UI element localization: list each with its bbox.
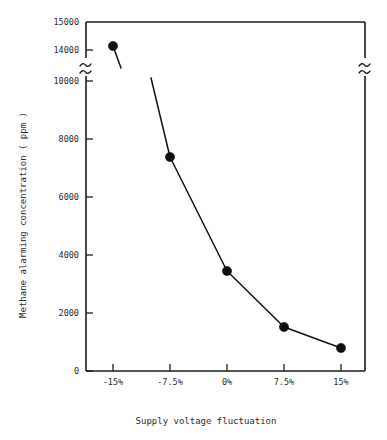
data-point-15 [336, 343, 345, 352]
y-tick-label-6000: 6000 [59, 192, 79, 202]
x-axis-title: Supply voltage fluctuation [136, 416, 277, 426]
data-point-0 [222, 266, 231, 275]
y-tick-label-0: 0 [74, 366, 79, 376]
x-tick-label-7point5: 7.5% [274, 377, 294, 387]
x-tick-label-15: 15% [333, 377, 348, 387]
line-chart-svg: 15000 14000 10000 8000 6000 4000 2000 0 … [0, 0, 387, 440]
chart-background [0, 0, 387, 440]
y-tick-label-15000: 15000 [53, 17, 79, 27]
x-tick-label-neg15: -15% [103, 377, 123, 387]
y-axis-break-right [359, 58, 371, 76]
data-point-7point5 [279, 322, 288, 331]
data-point-neg7point5 [165, 152, 174, 161]
y-tick-label-8000: 8000 [59, 134, 79, 144]
x-tick-label-0: 0% [222, 377, 232, 387]
y-tick-label-2000: 2000 [59, 308, 79, 318]
y-tick-label-14000: 14000 [53, 45, 79, 55]
data-point-neg15 [108, 41, 117, 50]
y-tick-label-10000: 10000 [53, 76, 79, 86]
x-tick-label-neg7point5: -7.5% [157, 377, 183, 387]
y-axis-title: Methane alarming concentration ( ppm ) [18, 112, 28, 318]
y-axis-break-left [80, 58, 92, 76]
chart-figure: 15000 14000 10000 8000 6000 4000 2000 0 … [0, 0, 387, 440]
y-tick-label-4000: 4000 [59, 250, 79, 260]
